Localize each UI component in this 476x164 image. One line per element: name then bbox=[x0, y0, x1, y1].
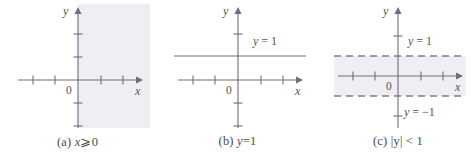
y-axis-label: y bbox=[62, 4, 69, 18]
panel-a-caption: (a) x⩾0 bbox=[0, 134, 155, 150]
origin-label: 0 bbox=[66, 84, 72, 96]
line-label-rest: = −1 bbox=[409, 105, 435, 119]
figure-container: y x 0 (a) x⩾0 bbox=[0, 0, 476, 164]
panel-c-plot: y = 1 y = −1 y x 0 bbox=[320, 0, 476, 132]
panel-b: y = 1 y x 0 (b) y=1 bbox=[160, 0, 315, 164]
panel-a-plot: y x 0 bbox=[0, 0, 155, 132]
line-label-y-equals-neg1: y = −1 bbox=[403, 105, 435, 119]
panel-c-caption-expression: |y| < 1 bbox=[391, 134, 423, 148]
x-axis-arrowhead-icon bbox=[296, 77, 303, 84]
x-axis-label: x bbox=[134, 84, 141, 98]
panel-a-caption-value: 0 bbox=[92, 135, 98, 149]
x-axis-label: x bbox=[294, 84, 301, 98]
line-label-y-equals-1: y = 1 bbox=[252, 34, 277, 48]
panel-c-svg: y = 1 y = −1 y x 0 bbox=[320, 0, 476, 132]
y-axis-arrowhead-icon bbox=[235, 7, 242, 14]
y-axis-arrowhead-icon bbox=[395, 7, 402, 14]
line-label-y-equals-1: y = 1 bbox=[407, 34, 432, 48]
origin-label: 0 bbox=[226, 84, 232, 96]
shaded-region-x-nonnegative bbox=[78, 4, 150, 128]
panel-c-caption-tag: (c) bbox=[373, 134, 387, 148]
panel-a: y x 0 (a) x⩾0 bbox=[0, 0, 155, 164]
y-axis-label: y bbox=[382, 4, 389, 18]
line-label-rest: = 1 bbox=[413, 34, 432, 48]
panel-c: y = 1 y = −1 y x 0 (c) |y| < 1 bbox=[320, 0, 476, 164]
panel-b-svg: y = 1 y x 0 bbox=[160, 0, 315, 132]
panel-b-caption-value: 1 bbox=[250, 134, 256, 148]
panel-b-plot: y = 1 y x 0 bbox=[160, 0, 315, 132]
line-label-rest: = 1 bbox=[258, 34, 277, 48]
panel-c-caption: (c) |y| < 1 bbox=[320, 134, 476, 149]
panel-b-caption-operator: = bbox=[243, 134, 250, 148]
x-axis-label: x bbox=[454, 80, 461, 94]
y-axis-label: y bbox=[222, 4, 229, 18]
panel-a-caption-tag: (a) bbox=[57, 135, 71, 149]
panel-a-caption-operator: ⩾ bbox=[80, 135, 91, 149]
panel-b-caption: (b) y=1 bbox=[160, 134, 315, 149]
panel-b-caption-tag: (b) bbox=[219, 134, 234, 148]
origin-label: 0 bbox=[386, 80, 392, 92]
panel-a-svg: y x 0 bbox=[0, 0, 155, 132]
